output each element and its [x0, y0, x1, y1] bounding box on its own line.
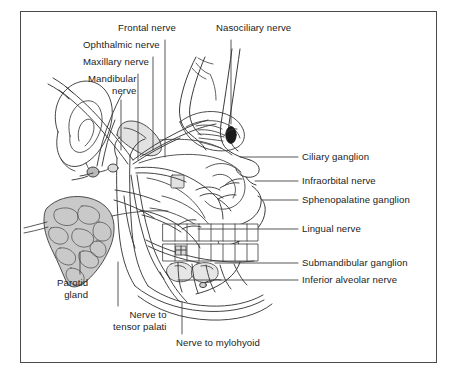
anatomical-figure: Frontal nerve Ophthalmic nerve Maxillary…	[0, 0, 454, 378]
label-inferior-alveolar-nerve: Inferior alveolar nerve	[302, 274, 397, 286]
label-nerve-to-mylohyoid: Nerve to mylohyoid	[176, 337, 260, 349]
label-frontal-nerve: Frontal nerve	[118, 22, 176, 34]
label-nerve-to-tensor-palati: Nerve to tensor palati	[113, 309, 167, 332]
label-parotid-gland: Parotid gland	[57, 277, 88, 300]
label-maxillary-nerve: Maxillary nerve	[83, 56, 149, 68]
nasociliary-branches	[192, 58, 216, 100]
label-submandibular-ganglion: Submandibular ganglion	[302, 257, 408, 269]
label-infraorbital-nerve: Infraorbital nerve	[302, 175, 376, 187]
anatomy-drawing	[0, 0, 454, 378]
label-ciliary-ganglion: Ciliary ganglion	[302, 151, 369, 163]
label-sphenopalatine-ganglion: Sphenopalatine ganglion	[302, 194, 410, 206]
upper-teeth-row	[163, 224, 258, 241]
parotid-gland-mass	[44, 196, 114, 286]
label-lingual-nerve: Lingual nerve	[302, 223, 361, 235]
otic-ganglion-node	[87, 167, 99, 177]
label-nasociliary-nerve: Nasociliary nerve	[216, 22, 291, 34]
facial-contour-back	[24, 222, 47, 228]
label-ophthalmic-nerve: Ophthalmic nerve	[83, 39, 160, 51]
label-mandibular-nerve: Mandibular nerve	[88, 73, 136, 96]
